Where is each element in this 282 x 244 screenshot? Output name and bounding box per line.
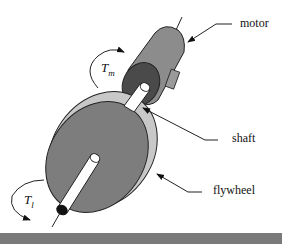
motor-flywheel-diagram: [0, 0, 282, 233]
bottom-bar: [0, 233, 282, 244]
flywheel-leader: [157, 174, 202, 192]
shaft-top-line: [176, 17, 182, 30]
shaft-label: shaft: [232, 131, 255, 146]
motor-label: motor: [240, 16, 269, 31]
motor-torque-symbol: Tm: [101, 60, 115, 78]
flywheel-label: flywheel: [213, 183, 255, 198]
load-torque-symbol: Tl: [24, 192, 34, 210]
motor-leader: [188, 24, 232, 42]
